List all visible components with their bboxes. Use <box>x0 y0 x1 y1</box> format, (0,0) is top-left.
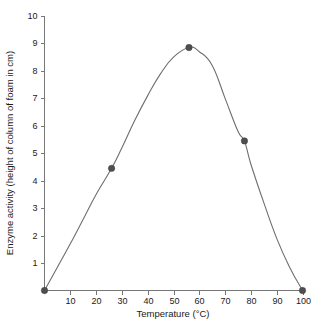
data-point-marker <box>241 138 247 144</box>
y-tick-label: 5 <box>32 148 37 158</box>
y-tick-label: 9 <box>32 38 37 48</box>
x-tick-label: 100 <box>296 296 311 306</box>
y-tick-label: 2 <box>32 231 37 241</box>
x-tick-label: 30 <box>117 296 127 306</box>
x-axis-title: Temperature (°C) <box>137 308 210 319</box>
x-tick-label: 40 <box>143 296 153 306</box>
x-tick-label: 70 <box>220 296 230 306</box>
chart-figure: 12345678910 Enzyme activity (height of c… <box>0 0 326 328</box>
data-point-marker <box>299 287 305 293</box>
x-tick-label: 10 <box>65 296 75 306</box>
y-tick-label: 8 <box>32 66 37 76</box>
y-tick-label: 7 <box>32 93 37 103</box>
y-tick-label: 4 <box>32 176 37 186</box>
data-point-marker <box>41 287 47 293</box>
y-tick-label: 6 <box>32 121 37 131</box>
y-tick-label: 3 <box>32 203 37 213</box>
y-tick-label: 10 <box>27 11 37 21</box>
x-tick-label: 90 <box>272 296 282 306</box>
data-point-marker <box>186 44 192 50</box>
data-point-marker <box>108 165 114 171</box>
enzyme-activity-line-chart: 12345678910 Enzyme activity (height of c… <box>0 0 326 328</box>
chart-background <box>0 0 326 328</box>
y-axis-title: Enzyme activity (height of column of foa… <box>4 51 15 255</box>
x-tick-label: 50 <box>169 296 179 306</box>
x-tick-label: 80 <box>246 296 256 306</box>
x-tick-label: 20 <box>91 296 101 306</box>
y-tick-label: 1 <box>32 258 37 268</box>
x-tick-label: 60 <box>194 296 204 306</box>
